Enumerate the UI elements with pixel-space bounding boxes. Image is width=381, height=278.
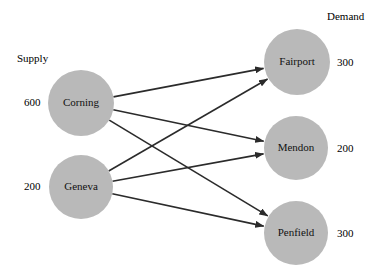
- demand-value-fairport: 300: [337, 56, 354, 68]
- node-mendon[interactable]: Mendon: [264, 116, 328, 180]
- node-label-penfield: Penfield: [278, 226, 315, 238]
- node-fairport[interactable]: Fairport: [264, 29, 330, 95]
- supply-header-label: Supply: [17, 52, 48, 64]
- node-corning[interactable]: Corning: [48, 70, 114, 136]
- demand-header-label: Demand: [327, 10, 364, 22]
- node-label-mendon: Mendon: [278, 141, 315, 153]
- node-label-fairport: Fairport: [279, 55, 314, 67]
- supply-value-corning: 600: [24, 96, 41, 108]
- network-diagram-canvas: CorningGenevaFairportMendonPenfield Supp…: [0, 0, 381, 278]
- edge-geneva-to-mendon: [112, 154, 263, 181]
- node-penfield[interactable]: Penfield: [264, 201, 328, 265]
- edge-corning-to-fairport: [113, 68, 263, 97]
- node-label-geneva: Geneva: [64, 180, 98, 192]
- edges-group: [109, 68, 268, 226]
- node-label-corning: Corning: [63, 96, 100, 108]
- network-graph: CorningGenevaFairportMendonPenfield: [0, 0, 381, 278]
- demand-value-mendon: 200: [337, 142, 354, 154]
- demand-value-penfield: 300: [337, 227, 354, 239]
- nodes-group: CorningGenevaFairportMendonPenfield: [48, 29, 330, 265]
- node-geneva[interactable]: Geneva: [49, 155, 113, 219]
- edge-geneva-to-penfield: [112, 194, 263, 226]
- supply-value-geneva: 200: [24, 180, 41, 192]
